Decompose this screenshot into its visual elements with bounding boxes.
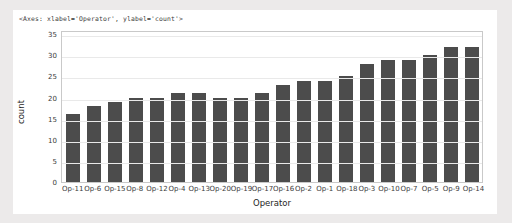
y-axis-label: count bbox=[16, 82, 26, 142]
bar bbox=[234, 98, 248, 182]
bar bbox=[87, 106, 101, 182]
x-axis-ticks: Op-11Op-6Op-15Op-8Op-12Op-4Op-13Op-20Op-… bbox=[61, 185, 483, 193]
gridline bbox=[62, 36, 482, 37]
bar bbox=[66, 114, 80, 182]
gridline bbox=[62, 78, 482, 79]
x-tick-label: Op-8 bbox=[125, 185, 144, 193]
x-tick-label: Op-16 bbox=[273, 185, 292, 193]
bar bbox=[339, 76, 353, 182]
plot-area bbox=[61, 31, 483, 183]
bar bbox=[171, 93, 185, 182]
y-tick-label: 30 bbox=[19, 52, 61, 60]
x-tick-label: Op-4 bbox=[167, 185, 186, 193]
x-tick-label: Op-18 bbox=[336, 185, 355, 193]
x-tick-label: Op-1 bbox=[315, 185, 334, 193]
bar bbox=[465, 47, 479, 182]
bar bbox=[213, 98, 227, 182]
gridline bbox=[62, 100, 482, 101]
bar bbox=[297, 81, 311, 182]
x-tick-label: Op-14 bbox=[463, 185, 482, 193]
y-tick-label: 25 bbox=[19, 73, 61, 81]
x-tick-label: Op-7 bbox=[399, 185, 418, 193]
screenshot-root: <Axes: xlabel='Operator', ylabel='count'… bbox=[0, 0, 512, 223]
x-tick-label: Op-6 bbox=[83, 185, 102, 193]
bar-series bbox=[62, 32, 482, 182]
bar bbox=[255, 93, 269, 182]
gridline bbox=[62, 57, 482, 58]
x-tick-label: Op-2 bbox=[294, 185, 313, 193]
bar bbox=[129, 98, 143, 182]
x-tick-label: Op-5 bbox=[421, 185, 440, 193]
y-tick-label: 35 bbox=[19, 31, 61, 39]
x-tick-label: Op-17 bbox=[252, 185, 271, 193]
y-tick-label: 0 bbox=[19, 179, 61, 187]
bar bbox=[444, 47, 458, 182]
x-tick-label: Op-20 bbox=[210, 185, 229, 193]
y-tick-label: 5 bbox=[19, 158, 61, 166]
bar bbox=[318, 81, 332, 182]
x-tick-label: Op-3 bbox=[357, 185, 376, 193]
gridline bbox=[62, 163, 482, 164]
gridline bbox=[62, 121, 482, 122]
bar bbox=[360, 64, 374, 182]
x-axis-label: Operator bbox=[61, 198, 483, 208]
x-tick-label: Op-11 bbox=[62, 185, 81, 193]
x-tick-label: Op-19 bbox=[231, 185, 250, 193]
gridline bbox=[62, 142, 482, 143]
bar-chart: 05101520253035 Op-11Op-6Op-15Op-8Op-12Op… bbox=[13, 10, 497, 214]
x-tick-label: Op-15 bbox=[104, 185, 123, 193]
x-tick-label: Op-13 bbox=[189, 185, 208, 193]
bar bbox=[192, 93, 206, 182]
x-tick-label: Op-10 bbox=[378, 185, 397, 193]
x-tick-label: Op-12 bbox=[146, 185, 165, 193]
x-tick-label: Op-9 bbox=[442, 185, 461, 193]
bar bbox=[150, 98, 164, 182]
figure-card: <Axes: xlabel='Operator', ylabel='count'… bbox=[13, 10, 497, 214]
